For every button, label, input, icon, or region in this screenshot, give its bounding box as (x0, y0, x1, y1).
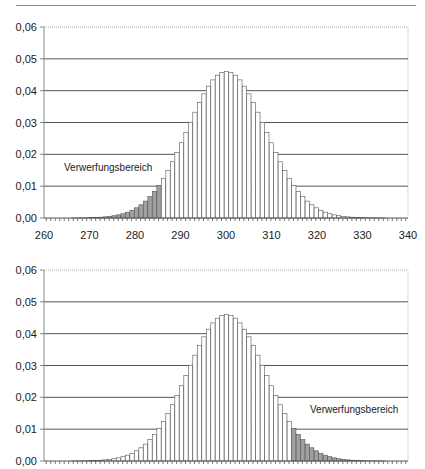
bar (202, 337, 206, 461)
bar (179, 386, 183, 461)
bar (224, 314, 228, 461)
bar (278, 162, 282, 218)
histogram-right-tail: 0,000,010,020,030,040,050,06Verwerfungsb… (0, 243, 425, 469)
bar (260, 122, 264, 218)
bar (193, 112, 197, 218)
chart-svg: 0,000,010,020,030,040,050,06Verwerfungsb… (0, 243, 425, 469)
bar (161, 421, 165, 461)
x-tick-label: 270 (80, 229, 98, 241)
bar (125, 455, 129, 461)
y-tick-label: 0,04 (16, 328, 37, 340)
y-tick-label: 0,02 (16, 148, 37, 160)
bar (197, 103, 201, 218)
bar (256, 112, 260, 218)
bar (314, 208, 318, 218)
bar (157, 428, 161, 461)
rejection-region-label: Verwerfungsbereich (310, 404, 398, 415)
bar-rejection-region (139, 205, 143, 218)
bar (319, 210, 323, 218)
bar (134, 451, 138, 461)
y-tick-label: 0,01 (16, 180, 37, 192)
bar (278, 405, 282, 461)
y-tick-label: 0,05 (16, 296, 37, 308)
bar-rejection-region (301, 440, 305, 461)
bar (251, 346, 255, 461)
bar (265, 133, 269, 218)
bar (188, 365, 192, 461)
bar (287, 421, 291, 461)
bar-rejection-region (328, 457, 332, 461)
bar (238, 80, 242, 218)
bar (166, 170, 170, 218)
bar-rejection-region (305, 444, 309, 461)
bar (224, 71, 228, 218)
bar (121, 457, 125, 461)
bar-rejection-region (143, 201, 147, 218)
bar-rejection-region (148, 197, 152, 218)
y-tick-label: 0,06 (16, 264, 37, 276)
bar (269, 386, 273, 461)
bar (265, 376, 269, 461)
y-tick-label: 0,03 (16, 117, 37, 129)
bar (184, 376, 188, 461)
bar (274, 153, 278, 218)
chart-svg: 0,000,010,020,030,040,050,06260270280290… (0, 0, 425, 245)
bar (197, 346, 201, 461)
bar (283, 413, 287, 461)
y-tick-label: 0,05 (16, 53, 37, 65)
bar-rejection-region (310, 448, 314, 461)
bar-rejection-region (292, 428, 296, 461)
bar (211, 323, 215, 461)
bar (229, 72, 233, 218)
bar (233, 75, 237, 218)
bar (229, 315, 233, 461)
histogram-left-tail: 0,000,010,020,030,040,050,06260270280290… (0, 0, 425, 245)
bar (292, 185, 296, 218)
bar (193, 355, 197, 461)
bar (139, 448, 143, 461)
bar (170, 162, 174, 218)
bar (269, 143, 273, 218)
bar (251, 103, 255, 218)
bar-rejection-region (134, 208, 138, 218)
x-tick-label: 290 (171, 229, 189, 241)
bar (296, 191, 300, 218)
y-tick-label: 0,02 (16, 391, 37, 403)
bar (130, 453, 134, 461)
bar (260, 365, 264, 461)
x-tick-label: 300 (217, 229, 235, 241)
bar (161, 178, 165, 218)
bar (242, 329, 246, 461)
y-tick-label: 0,04 (16, 85, 37, 97)
bar (148, 440, 152, 461)
bar-rejection-region (125, 212, 129, 218)
bar-rejection-region (323, 455, 327, 461)
bar (220, 72, 224, 218)
bar (211, 80, 215, 218)
bar (256, 355, 260, 461)
y-tick-label: 0,03 (16, 360, 37, 372)
bar-rejection-region (319, 453, 323, 461)
x-tick-label: 320 (308, 229, 326, 241)
y-tick-label: 0,00 (16, 212, 37, 224)
bar (323, 212, 327, 218)
x-tick-label: 260 (35, 229, 53, 241)
bar (206, 329, 210, 461)
bar-rejection-region (152, 191, 156, 218)
bar (220, 315, 224, 461)
bar (143, 444, 147, 461)
bar (152, 434, 156, 461)
bar (188, 122, 192, 218)
bar (283, 170, 287, 218)
bar (179, 143, 183, 218)
bar (310, 205, 314, 218)
y-tick-label: 0,00 (16, 455, 37, 467)
bar-rejection-region (314, 451, 318, 461)
bar (202, 94, 206, 218)
bar (247, 94, 251, 218)
bar (206, 86, 210, 218)
y-tick-label: 0,06 (16, 21, 37, 33)
bar (238, 323, 242, 461)
x-tick-label: 340 (399, 229, 417, 241)
bar (170, 405, 174, 461)
